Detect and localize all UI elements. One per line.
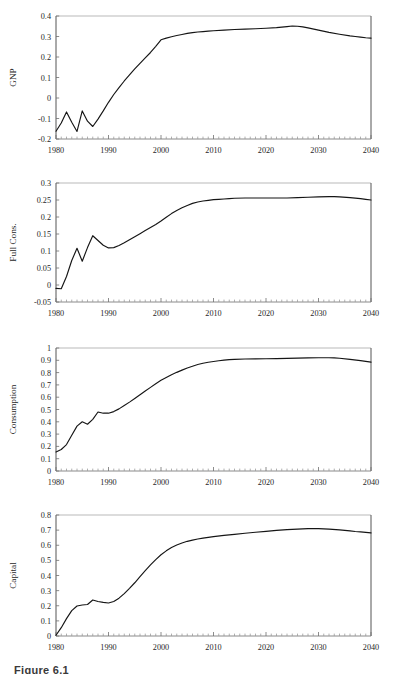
figure-panel-stack: 0.40.30.20.10-0.1-0.21980199020002010202… bbox=[0, 0, 394, 674]
y-tick-label: 0.3 bbox=[41, 587, 51, 596]
plot-frame bbox=[56, 16, 371, 139]
x-tick-label: 1990 bbox=[100, 478, 116, 487]
x-tick-label: 2020 bbox=[258, 309, 274, 318]
plot-frame bbox=[56, 183, 371, 302]
x-tick-label: 2000 bbox=[153, 478, 169, 487]
chart-panel-consumption: 10.90.80.70.60.50.40.30.20.1019801990200… bbox=[0, 340, 394, 502]
y-tick-label: 0.4 bbox=[41, 12, 51, 21]
y-tick-label: -0.1 bbox=[38, 115, 51, 124]
y-tick-label: 0.4 bbox=[41, 572, 51, 581]
y-tick-label: 0.15 bbox=[37, 230, 51, 239]
chart-svg: 10.90.80.70.60.50.40.30.20.1019801990200… bbox=[0, 340, 394, 502]
chart-panel-gnp: 0.40.30.20.10-0.1-0.21980199020002010202… bbox=[0, 8, 394, 170]
data-series-line bbox=[56, 197, 371, 289]
y-tick-label: 0.2 bbox=[41, 53, 51, 62]
y-tick-label: 0.7 bbox=[41, 381, 51, 390]
x-tick-label: 2010 bbox=[205, 146, 221, 155]
x-tick-label: 1980 bbox=[48, 478, 64, 487]
y-tick-label: -0.2 bbox=[38, 135, 51, 144]
y-tick-label: 0.5 bbox=[41, 406, 51, 415]
x-tick-label: 2000 bbox=[153, 146, 169, 155]
x-axis-minor-ticks bbox=[56, 298, 371, 302]
x-tick-label: 2000 bbox=[153, 643, 169, 652]
y-tick-label: 0.8 bbox=[41, 369, 51, 378]
x-axis-labels: 1980199020002010202020302040 bbox=[48, 309, 379, 318]
x-tick-label: 2030 bbox=[310, 146, 326, 155]
x-tick-label: 2010 bbox=[205, 643, 221, 652]
y-tick-label: -0.05 bbox=[34, 298, 51, 307]
y-tick-label: 0.2 bbox=[41, 602, 51, 611]
y-tick-label: 0.05 bbox=[37, 264, 51, 273]
y-tick-label: 0.6 bbox=[41, 393, 51, 402]
figure-caption: Figure 6.1 bbox=[14, 664, 69, 674]
x-tick-label: 1980 bbox=[48, 309, 64, 318]
y-tick-label: 0.1 bbox=[41, 247, 51, 256]
x-axis-labels: 1980199020002010202020302040 bbox=[48, 146, 379, 155]
y-axis-title: Consumption bbox=[8, 384, 18, 434]
y-tick-label: 0.1 bbox=[41, 455, 51, 464]
y-tick-label: 0.8 bbox=[41, 511, 51, 520]
x-tick-label: 2040 bbox=[363, 478, 379, 487]
y-tick-label: 0.1 bbox=[41, 74, 51, 83]
y-tick-label: 0.3 bbox=[41, 430, 51, 439]
y-tick-label: 0.5 bbox=[41, 556, 51, 565]
x-axis-minor-ticks bbox=[56, 632, 371, 636]
x-tick-label: 2030 bbox=[310, 643, 326, 652]
plot-frame bbox=[56, 515, 371, 636]
y-tick-label: 0 bbox=[47, 281, 51, 290]
chart-panel-full-cons: 0.30.250.20.150.10.050-0.051980199020002… bbox=[0, 175, 394, 333]
y-axis-title: GNP bbox=[8, 68, 18, 86]
x-tick-label: 2000 bbox=[153, 309, 169, 318]
data-series-line bbox=[56, 358, 371, 452]
x-tick-label: 2020 bbox=[258, 643, 274, 652]
x-tick-label: 2020 bbox=[258, 146, 274, 155]
chart-svg: 0.30.250.20.150.10.050-0.051980199020002… bbox=[0, 175, 394, 333]
y-tick-label: 1 bbox=[47, 344, 51, 353]
data-series-line bbox=[56, 528, 371, 635]
chart-svg: 0.80.70.60.50.40.30.20.10198019902000201… bbox=[0, 507, 394, 667]
y-tick-label: 0 bbox=[47, 94, 51, 103]
y-tick-label: 0.6 bbox=[41, 541, 51, 550]
chart-svg: 0.40.30.20.10-0.1-0.21980199020002010202… bbox=[0, 8, 394, 170]
y-axis-title: Capital bbox=[8, 562, 18, 589]
x-tick-label: 1980 bbox=[48, 643, 64, 652]
x-tick-label: 2040 bbox=[363, 309, 379, 318]
x-tick-label: 2010 bbox=[205, 478, 221, 487]
plot-frame bbox=[56, 348, 371, 471]
y-tick-label: 0 bbox=[47, 467, 51, 476]
x-axis-labels: 1980199020002010202020302040 bbox=[48, 643, 379, 652]
x-tick-label: 1990 bbox=[100, 643, 116, 652]
chart-panel-capital: 0.80.70.60.50.40.30.20.10198019902000201… bbox=[0, 507, 394, 667]
x-tick-label: 2010 bbox=[205, 309, 221, 318]
y-tick-label: 0.3 bbox=[41, 179, 51, 188]
y-tick-label: 0.7 bbox=[41, 526, 51, 535]
y-tick-label: 0.9 bbox=[41, 356, 51, 365]
x-tick-label: 1990 bbox=[100, 146, 116, 155]
x-axis-minor-ticks bbox=[56, 135, 371, 139]
y-tick-label: 0 bbox=[47, 632, 51, 641]
x-tick-label: 2030 bbox=[310, 478, 326, 487]
x-axis-labels: 1980199020002010202020302040 bbox=[48, 478, 379, 487]
y-tick-label: 0.4 bbox=[41, 418, 51, 427]
y-axis-title: Full Cons. bbox=[8, 223, 18, 261]
x-tick-label: 1990 bbox=[100, 309, 116, 318]
y-tick-label: 0.3 bbox=[41, 33, 51, 42]
y-tick-label: 0.2 bbox=[41, 442, 51, 451]
x-tick-label: 2040 bbox=[363, 643, 379, 652]
data-series-line bbox=[56, 26, 371, 131]
y-tick-label: 0.25 bbox=[37, 196, 51, 205]
x-tick-label: 2030 bbox=[310, 309, 326, 318]
x-tick-label: 2040 bbox=[363, 146, 379, 155]
x-tick-label: 1980 bbox=[48, 146, 64, 155]
y-axis-ticks: 0.30.250.20.150.10.050-0.05 bbox=[34, 179, 59, 307]
y-tick-label: 0.1 bbox=[41, 617, 51, 626]
y-tick-label: 0.2 bbox=[41, 213, 51, 222]
x-tick-label: 2020 bbox=[258, 478, 274, 487]
x-axis-minor-ticks bbox=[56, 467, 371, 471]
